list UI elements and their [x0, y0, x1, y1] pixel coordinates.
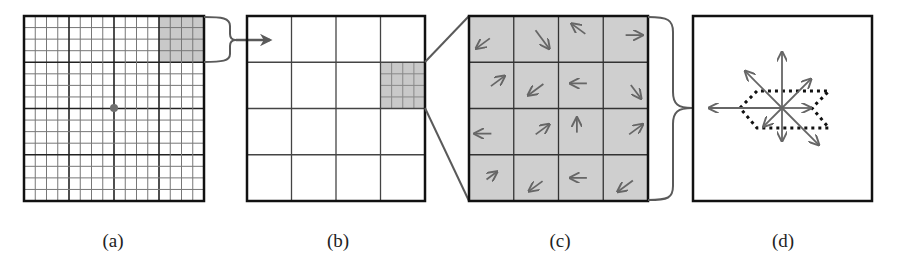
caption-a: (a) — [102, 230, 123, 252]
caption-c: (c) — [549, 230, 570, 252]
keypoint-dot — [110, 104, 118, 112]
bracket-c-to-d — [648, 17, 692, 200]
panel-c-gradient-cells — [469, 16, 648, 201]
panel-a-pixel-grid — [24, 16, 204, 201]
panel-b-subregion-grid — [247, 16, 425, 201]
zoom-lines-b-to-c — [425, 16, 469, 201]
caption-d: (d) — [772, 230, 794, 252]
sift-diagram — [0, 0, 899, 274]
bracket-arrow-a-to-b — [204, 17, 270, 62]
panel-d-orientation-histogram — [693, 16, 872, 201]
caption-b: (b) — [327, 230, 349, 252]
